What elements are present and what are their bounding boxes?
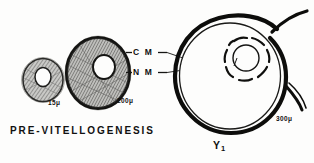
small-oocyte-scale-label: 15μ	[48, 100, 60, 107]
stage-y1-label: Y1	[213, 140, 225, 151]
medium-oocyte-scale-label: 200μ	[117, 98, 133, 105]
pre-vitellogenesis-caption: PRE-VITELLOGENESIS	[10, 126, 155, 136]
diagram-canvas	[0, 0, 314, 163]
stage-y1-letter: Y	[213, 139, 221, 151]
medium-oocyte-nuclear-membrane	[93, 55, 115, 79]
stage-y1-subscript: 1	[221, 144, 226, 153]
small-oocyte-group	[22, 58, 65, 103]
large-oocyte-scale-label: 300μ	[276, 116, 292, 123]
small-oocyte-nucleus	[35, 68, 51, 87]
large-oocyte-spiral-tail-right-outer	[289, 83, 306, 108]
large-oocyte-spiral-tail-right	[286, 86, 302, 110]
oocyte-diagram-figure: C M N M 15μ 200μ 300μ PRE-VITELLOGENESIS…	[0, 0, 314, 163]
large-oocyte-spiral-tail-top	[272, 11, 307, 32]
nuclear-membrane-label: N M	[133, 68, 153, 77]
cell-membrane-label: C M	[133, 48, 153, 57]
